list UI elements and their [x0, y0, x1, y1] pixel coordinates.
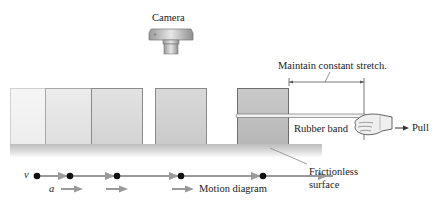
stretch-label: Maintain constant stretch. [278, 60, 387, 72]
diagram-lines [0, 0, 440, 208]
pull-label: Pull [412, 122, 429, 134]
motion-diagram-label: Motion diagram [199, 183, 267, 195]
surface-label-line2: surface [309, 179, 339, 191]
rubber-band-label: Rubber band [294, 123, 348, 135]
surface-label-line1: Frictionless [309, 166, 358, 178]
velocity-symbol: v⃗ [24, 169, 37, 181]
hand-icon [352, 111, 394, 137]
acceleration-symbol: a⃗ [49, 183, 62, 195]
